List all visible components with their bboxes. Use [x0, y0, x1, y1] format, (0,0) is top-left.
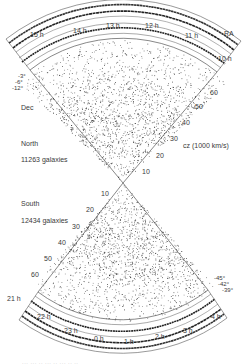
north-cz-tick-50: 50: [195, 103, 203, 111]
south-cz-tick-50: 50: [44, 255, 52, 263]
south-cz-tick-10: 10: [101, 190, 109, 198]
north-ra-tick-10h: 10 h: [218, 55, 232, 63]
north-cz-tick-10: 10: [142, 168, 150, 176]
south-ra-tick-23h: 23 h: [64, 327, 78, 335]
south-ra-tick-21h: 21 h: [7, 295, 21, 303]
south-ra-tick-2h: 2 h: [155, 333, 165, 341]
south-cz-tick-40: 40: [58, 239, 66, 247]
south-dec-tick-39: -39°: [222, 287, 233, 293]
north-ra-tick-11h: 11 h: [185, 32, 198, 40]
ra-axis-label: RA: [224, 30, 234, 38]
south-cz-tick-20: 20: [86, 206, 94, 214]
north-count: 11263 galaxies: [21, 156, 68, 164]
cz-axis-label: cz (1000 km/s): [183, 142, 229, 150]
south-cz-tick-60: 60: [31, 271, 39, 279]
north-dec-tick-12: -12°: [12, 85, 23, 91]
north-cz-tick-40: 40: [182, 119, 190, 127]
north-label: North: [21, 140, 38, 148]
south-ra-tick-22h: 22 h: [37, 313, 51, 321]
south-ra-tick-3h: 3 h: [183, 327, 193, 335]
north-ra-tick-12h: 12 h: [145, 22, 159, 30]
figure-caption: ··· ··· ·· ··· ·· ··· ·· ··: [22, 360, 79, 364]
south-ra-tick-1h: 1 h: [124, 338, 134, 346]
north-ra-tick-13h: 13 h: [106, 22, 120, 30]
dec-axis-label: Dec: [21, 104, 33, 112]
south-cone: [19, 183, 227, 353]
south-count: 12434 galaxies: [21, 217, 68, 225]
north-ra-tick-14h: 14 h: [73, 27, 87, 35]
north-ra-tick-15h: 15 h: [30, 31, 44, 39]
north-cz-tick-30: 30: [170, 135, 178, 143]
south-ra-tick-0h: 0 h: [94, 335, 104, 343]
north-cz-tick-20: 20: [156, 152, 164, 160]
redshift-cone-diagram: [0, 0, 250, 364]
south-label: South: [21, 200, 39, 208]
south-ra-tick-4h: 4 h: [211, 313, 221, 321]
south-cz-tick-30: 30: [72, 223, 80, 231]
north-cz-tick-60: 60: [210, 89, 218, 97]
